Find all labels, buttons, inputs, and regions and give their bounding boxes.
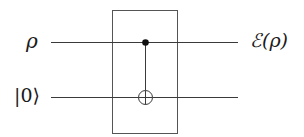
output-label-channel: ℰ(ρ) [250, 31, 288, 50]
input-label-ket-zero: |0⟩ [14, 86, 40, 105]
input-label-rho: ρ [26, 31, 38, 51]
target-oplus-icon [139, 91, 153, 105]
quantum-circuit-diagram: ρ |0⟩ ℰ(ρ) [0, 0, 304, 137]
circuit-svg [0, 0, 304, 137]
control-dot-icon [142, 39, 149, 46]
